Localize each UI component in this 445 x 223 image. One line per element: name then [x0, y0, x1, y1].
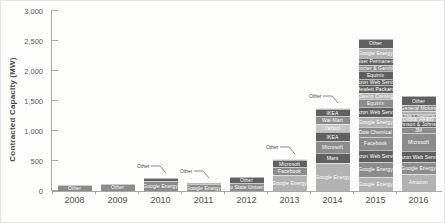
segment-label: Other — [68, 186, 81, 191]
y-tick-mark — [51, 40, 58, 41]
other-callout: Other — [137, 164, 168, 174]
bars-container: Other2008Other2009Google EnergyOther2010… — [53, 11, 440, 191]
bar-segment: Other — [101, 184, 135, 191]
segment-label: Ohio State University — [230, 185, 264, 190]
y-tick-mark — [51, 130, 58, 131]
segment-label: Amazon Web Services — [359, 154, 393, 159]
year-slot-2015: OtherGoogle EnergyKaiser PermanenteProct… — [354, 11, 397, 191]
other-callout: Other — [266, 145, 297, 155]
bar-segment: Google Energy — [359, 48, 393, 59]
y-tick-label: 3,000 — [13, 7, 43, 16]
segment-label: Microsoft — [279, 162, 300, 167]
bar-segment: Mars — [316, 153, 350, 164]
x-axis-label-2011: 2011 — [182, 195, 225, 205]
segment-label: Yahoo! — [324, 126, 340, 131]
x-axis-line — [52, 191, 442, 192]
stacked-bar-2013: MicrosoftFacebookGoogle Energy — [273, 159, 307, 191]
bar-segment: Other — [58, 185, 92, 191]
other-callout-label: Other — [180, 169, 193, 174]
y-tick-label: 1,500 — [13, 97, 43, 106]
x-tick-mark — [224, 191, 225, 194]
x-axis-label-2009: 2009 — [96, 195, 139, 205]
bar-segment: IKEA — [316, 132, 350, 142]
stacked-bar-2015: OtherGoogle EnergyKaiser PermanenteProct… — [359, 39, 393, 191]
contracted-capacity-chart: Contracted Capacity (MW) Other2008Other2… — [0, 0, 445, 223]
stacked-bar-2011: Google Energy — [187, 183, 221, 191]
bar-segment: Procter & Gamble — [359, 65, 393, 72]
bar-segment: Other — [402, 96, 436, 105]
bar-segment: Microsoft — [273, 160, 307, 167]
segment-label: Google Energy — [359, 120, 393, 125]
x-tick-mark — [95, 191, 96, 194]
year-slot-2011: Google EnergyOther2011 — [182, 11, 225, 191]
bar-segment: Facebook — [359, 137, 393, 150]
segment-label: Amazon Web Services — [402, 155, 436, 160]
x-axis-label-2008: 2008 — [53, 195, 96, 205]
bar-segment: Amazon Web Services — [359, 79, 393, 86]
stacked-bar-2008: Other — [58, 185, 92, 191]
year-slot-2008: Other2008 — [53, 11, 96, 191]
y-tick-label: 500 — [13, 157, 43, 166]
bar-segment: Google Energy — [187, 184, 221, 191]
bar-segment: Google Energy — [144, 181, 178, 192]
year-slot-2012: OtherOhio State University2012 — [225, 11, 268, 191]
segment-label: Other — [240, 178, 253, 183]
segment-label: Kaiser Permanente — [359, 59, 393, 64]
year-slot-2014: IKEAWal-MartYahoo!IKEAMicrosoftMarsGoogl… — [311, 11, 354, 191]
segment-label: Amazon — [409, 180, 428, 185]
segment-label: Facebook — [278, 169, 301, 174]
segment-label: Hewlett Packard — [359, 87, 393, 92]
x-tick-mark — [353, 191, 354, 194]
y-tick-label: 0 — [13, 187, 43, 196]
stacked-bar-2012: OtherOhio State University — [230, 177, 264, 191]
segment-label: Dow Chemical — [359, 130, 392, 135]
year-slot-2010: Google EnergyOther2010 — [139, 11, 182, 191]
bar-segment: Equinix — [359, 71, 393, 79]
x-tick-mark — [396, 191, 397, 194]
stacked-bar-2014: IKEAWal-MartYahoo!IKEAMicrosoftMarsGoogl… — [316, 108, 350, 191]
bar-segment: Microsoft — [316, 141, 350, 152]
segment-label: General Motors — [402, 106, 436, 111]
segment-label: IKEA — [327, 111, 339, 116]
stacked-bar-2016: OtherGeneral MotorsDow ChemicalDigital R… — [402, 96, 436, 191]
x-tick-mark — [138, 191, 139, 194]
other-callout-label: Other — [309, 94, 322, 99]
bar-segment: Dow Chemical — [359, 127, 393, 137]
y-tick-mark — [51, 70, 58, 71]
x-axis-label-2015: 2015 — [354, 195, 397, 205]
bar-segment: Google Energy — [359, 162, 393, 176]
other-callout-label: Other — [137, 164, 150, 169]
segment-label: Google Energy — [359, 182, 393, 187]
y-tick-label: 2,000 — [13, 67, 43, 76]
segment-label: Procter & Gamble — [359, 66, 393, 71]
segment-label: Google Energy — [359, 167, 393, 172]
bar-segment: Microsoft — [402, 133, 436, 151]
y-tick-mark — [51, 100, 58, 101]
bar-segment: Hewlett Packard — [359, 85, 393, 93]
x-axis-label-2013: 2013 — [268, 195, 311, 205]
segment-label: Mars — [327, 156, 339, 161]
x-axis-label-2012: 2012 — [225, 195, 268, 205]
callout-line — [193, 170, 211, 179]
callout-line — [322, 95, 340, 104]
bar-segment: Amazon Web Services — [359, 150, 393, 162]
stacked-bar-2010: Google Energy — [144, 178, 178, 191]
year-slot-2013: MicrosoftFacebookGoogle EnergyOther2013 — [268, 11, 311, 191]
x-axis-label-2014: 2014 — [311, 195, 354, 205]
bar-segment: Google Energy — [316, 163, 350, 191]
callout-line — [150, 165, 168, 174]
year-slot-2016: OtherGeneral MotorsDow ChemicalDigital R… — [397, 11, 440, 191]
segment-label: Google Energy — [402, 166, 436, 171]
segment-label: Microsoft — [408, 140, 429, 145]
segment-label: IKEA — [327, 135, 339, 140]
stacked-bar-2009: Other — [101, 184, 135, 191]
bar-segment: Amazon Web Services — [359, 107, 393, 117]
other-callout: Other — [180, 169, 211, 179]
bar-segment: Equinix — [359, 99, 393, 107]
segment-label: Amazon Web Services — [359, 110, 393, 115]
bar-segment: Other — [359, 39, 393, 48]
bar-segment: Google Energy — [359, 177, 393, 191]
bar-segment: Amazon Web Services — [402, 151, 436, 162]
bar-segment: Google Energy — [273, 175, 307, 191]
segment-label: Microsoft — [322, 145, 343, 150]
